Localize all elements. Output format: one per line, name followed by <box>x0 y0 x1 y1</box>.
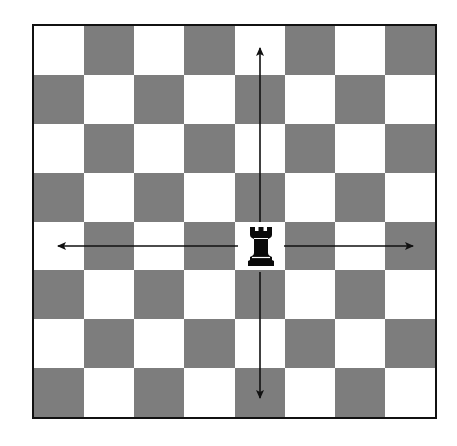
board-square-r2-c7 <box>385 124 435 173</box>
board-square-r0-c5 <box>285 26 335 75</box>
board-square-r3-c7 <box>385 173 435 222</box>
board-square-r0-c0 <box>34 26 84 75</box>
board-square-r6-c6 <box>335 319 385 368</box>
board-square-r5-c4 <box>235 270 285 319</box>
board-square-r6-c4 <box>235 319 285 368</box>
board-square-r2-c3 <box>184 124 234 173</box>
board-square-r7-c2 <box>134 368 184 417</box>
board-square-r7-c4 <box>235 368 285 417</box>
board-square-r5-c1 <box>84 270 134 319</box>
board-square-r6-c3 <box>184 319 234 368</box>
board-square-r6-c7 <box>385 319 435 368</box>
chessboard <box>32 24 437 419</box>
board-square-r5-c5 <box>285 270 335 319</box>
board-square-r6-c5 <box>285 319 335 368</box>
board-square-r3-c4 <box>235 173 285 222</box>
board-square-r5-c6 <box>335 270 385 319</box>
board-square-r3-c0 <box>34 173 84 222</box>
board-square-r1-c0 <box>34 75 84 124</box>
board-square-r4-c1 <box>84 222 134 271</box>
board-square-r2-c2 <box>134 124 184 173</box>
board-square-r6-c2 <box>134 319 184 368</box>
board-square-r1-c6 <box>335 75 385 124</box>
board-square-r0-c1 <box>84 26 134 75</box>
board-square-r0-c7 <box>385 26 435 75</box>
board-square-r4-c3 <box>184 222 234 271</box>
board-square-r7-c1 <box>84 368 134 417</box>
board-square-r7-c3 <box>184 368 234 417</box>
board-square-r2-c5 <box>285 124 335 173</box>
board-square-r3-c6 <box>335 173 385 222</box>
board-square-r1-c4 <box>235 75 285 124</box>
board-square-r5-c7 <box>385 270 435 319</box>
board-square-r1-c1 <box>84 75 134 124</box>
board-square-r6-c0 <box>34 319 84 368</box>
board-square-r1-c2 <box>134 75 184 124</box>
board-square-r6-c1 <box>84 319 134 368</box>
board-square-r4-c6 <box>335 222 385 271</box>
board-square-r0-c6 <box>335 26 385 75</box>
board-square-r1-c3 <box>184 75 234 124</box>
board-square-r0-c4 <box>235 26 285 75</box>
board-square-r1-c5 <box>285 75 335 124</box>
board-square-r5-c2 <box>134 270 184 319</box>
board-square-r0-c2 <box>134 26 184 75</box>
board-square-r7-c6 <box>335 368 385 417</box>
board-square-r3-c5 <box>285 173 335 222</box>
board-square-r5-c0 <box>34 270 84 319</box>
board-square-r3-c2 <box>134 173 184 222</box>
black-rook-icon <box>243 224 279 268</box>
board-square-r1-c7 <box>385 75 435 124</box>
board-square-r2-c0 <box>34 124 84 173</box>
board-square-r4-c5 <box>285 222 335 271</box>
board-square-r3-c3 <box>184 173 234 222</box>
board-square-r4-c0 <box>34 222 84 271</box>
board-square-r2-c1 <box>84 124 134 173</box>
board-square-r2-c4 <box>235 124 285 173</box>
board-square-r0-c3 <box>184 26 234 75</box>
board-square-r7-c5 <box>285 368 335 417</box>
board-square-r3-c1 <box>84 173 134 222</box>
board-square-r4-c2 <box>134 222 184 271</box>
board-square-r4-c7 <box>385 222 435 271</box>
board-square-r7-c0 <box>34 368 84 417</box>
board-square-r2-c6 <box>335 124 385 173</box>
board-square-r7-c7 <box>385 368 435 417</box>
board-square-r5-c3 <box>184 270 234 319</box>
